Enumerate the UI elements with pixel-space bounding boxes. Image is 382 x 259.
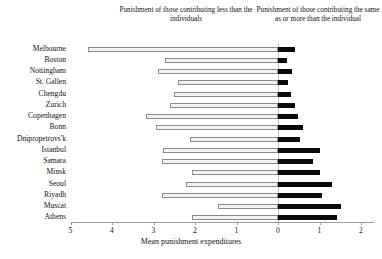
bar-negative (162, 159, 278, 164)
category-label: Riyadh (0, 191, 66, 199)
x-tick (278, 222, 279, 225)
category-label: Dnipropetrovs'k (0, 135, 66, 143)
x-tick-label: 5 (63, 226, 79, 235)
category-label: Bonn (0, 123, 66, 131)
bar-positive (278, 80, 288, 85)
bar-positive (278, 92, 291, 97)
x-tick-label: 2 (187, 226, 203, 235)
category-label: Samara (0, 157, 66, 165)
bar-negative (192, 215, 278, 220)
bar-negative (186, 182, 278, 187)
bar-negative (163, 148, 278, 153)
bar-negative (190, 137, 278, 142)
bar-positive (278, 159, 313, 164)
x-tick (361, 222, 362, 225)
bar-negative (88, 47, 278, 52)
bar-positive (278, 114, 298, 119)
category-label: Boston (0, 56, 66, 64)
category-label: Athens (0, 213, 66, 221)
bar-positive (278, 204, 341, 209)
bar-negative (178, 80, 278, 85)
x-tick (112, 222, 113, 225)
bar-positive (278, 69, 292, 74)
bar-negative (162, 193, 278, 198)
bar-positive (278, 103, 295, 108)
category-label: Melbourne (0, 45, 66, 53)
x-tick (71, 222, 72, 225)
bar-negative (192, 170, 278, 175)
category-label: Seoul (0, 180, 66, 188)
category-label: Muscat (0, 202, 66, 210)
category-label: Istanbul (0, 146, 66, 154)
x-tick-label: 4 (104, 226, 120, 235)
x-axis-title: Mean punishment expenditures (0, 237, 382, 246)
bar-positive (278, 47, 295, 52)
x-tick-label: 1 (312, 226, 328, 235)
category-label: St. Gallen (0, 78, 66, 86)
plot-area: 54321012 MelbourneBostonNottinghamSt. Ga… (0, 0, 382, 259)
bar-positive (278, 193, 322, 198)
bar-positive (278, 137, 300, 142)
x-tick-label: 0 (270, 226, 286, 235)
bar-negative (165, 58, 278, 63)
bar-positive (278, 148, 320, 153)
bar-negative (174, 92, 278, 97)
x-tick (195, 222, 196, 225)
category-label: Chengdu (0, 90, 66, 98)
category-label: Copenhagen (0, 112, 66, 120)
bar-positive (278, 58, 287, 63)
x-tick (154, 222, 155, 225)
bar-negative (170, 103, 278, 108)
category-label: Minsk (0, 168, 66, 176)
bar-positive (278, 215, 337, 220)
x-axis-line (71, 222, 374, 223)
x-tick (320, 222, 321, 225)
x-tick-label: 3 (146, 226, 162, 235)
bar-negative (158, 69, 278, 74)
bar-negative (156, 125, 278, 130)
bar-negative (218, 204, 278, 209)
category-label: Zurich (0, 101, 66, 109)
x-tick (237, 222, 238, 225)
bar-positive (278, 170, 320, 175)
bar-negative (146, 114, 278, 119)
x-tick-label: 1 (229, 226, 245, 235)
category-label: Nottingham (0, 67, 66, 75)
bar-positive (278, 125, 303, 130)
x-tick-label: 2 (353, 226, 369, 235)
bar-positive (278, 182, 332, 187)
chart-figure: Punishment of those contributing less th… (0, 0, 382, 259)
